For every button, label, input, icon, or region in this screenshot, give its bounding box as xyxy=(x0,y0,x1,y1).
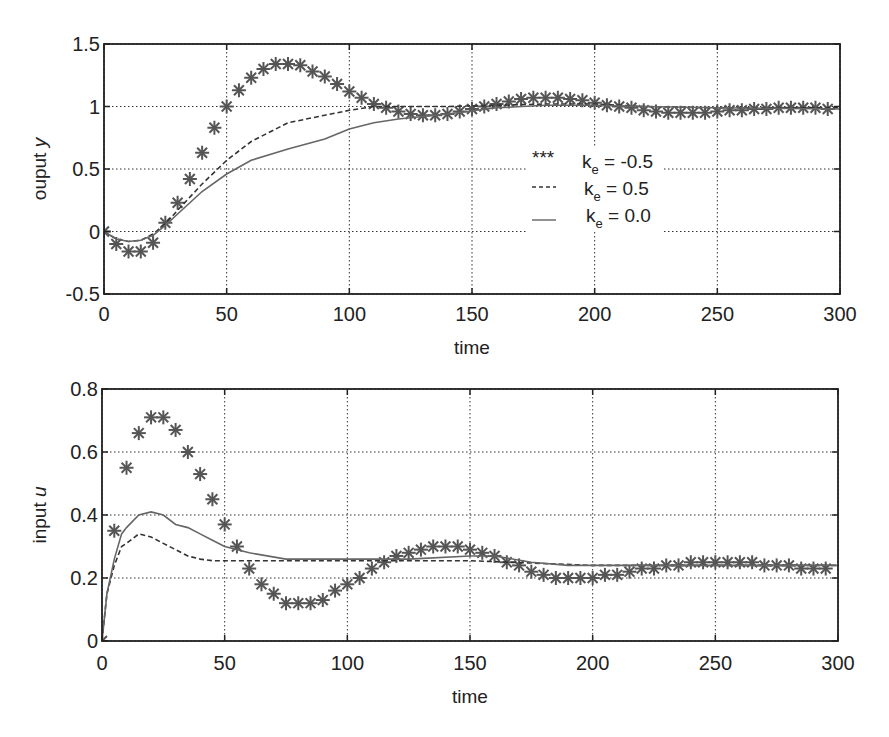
output-y-panel: 050100150200250300-0.500.511.5timeouput … xyxy=(29,33,857,358)
y-axis-label: input u xyxy=(29,486,50,543)
x-tick-label: 0 xyxy=(96,652,107,674)
x-tick-label: 200 xyxy=(576,652,609,674)
x-axis-label: time xyxy=(454,337,490,358)
x-axis-label: time xyxy=(452,686,488,707)
y-tick-label: 0.2 xyxy=(70,567,98,589)
y-tick-label: 0 xyxy=(89,221,100,243)
y-tick-label: -0.5 xyxy=(66,283,100,305)
y-tick-label: 1.5 xyxy=(72,33,100,55)
y-tick-label: 0.8 xyxy=(70,378,98,400)
x-tick-label: 250 xyxy=(699,652,732,674)
grid xyxy=(102,389,838,641)
x-tick-label: 150 xyxy=(453,652,486,674)
figure: 050100150200250300-0.500.511.5timeouput … xyxy=(0,0,889,737)
legend-marker-asterisks: *** xyxy=(532,147,555,168)
y-tick-label: 1 xyxy=(89,96,100,118)
x-tick-label: 100 xyxy=(331,652,364,674)
x-tick-label: 150 xyxy=(455,303,488,325)
y-tick-label: 0.4 xyxy=(70,504,98,526)
x-tick-label: 300 xyxy=(823,303,856,325)
y-tick-label: 0.5 xyxy=(72,158,100,180)
x-tick-label: 50 xyxy=(216,303,238,325)
series-group xyxy=(97,57,840,259)
x-tick-label: 50 xyxy=(214,652,236,674)
x-tick-label: 300 xyxy=(821,652,854,674)
series-asterisk-markers xyxy=(97,57,835,259)
y-axis-label: ouput y xyxy=(29,136,50,200)
input-u-panel: 05010015020025030000.20.40.60.8timeinput… xyxy=(29,378,855,707)
x-tick-label: 250 xyxy=(701,303,734,325)
x-tick-label: 100 xyxy=(333,303,366,325)
series-asterisk-markers xyxy=(95,410,833,648)
legend: ***ke = -0.5ke = 0.5ke = 0.0 xyxy=(526,147,662,232)
x-tick-label: 0 xyxy=(98,303,109,325)
y-tick-label: 0 xyxy=(87,630,98,652)
grid xyxy=(104,44,840,294)
x-tick-label: 200 xyxy=(578,303,611,325)
y-tick-label: 0.6 xyxy=(70,441,98,463)
series-group xyxy=(95,410,838,648)
